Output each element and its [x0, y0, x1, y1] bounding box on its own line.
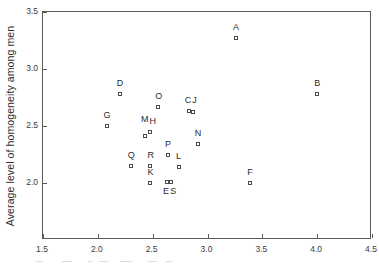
x-tick-mark	[262, 234, 263, 238]
data-point-marker	[156, 105, 160, 109]
data-point-label: S	[170, 187, 176, 196]
artifact-dash	[120, 261, 132, 262]
data-point-marker	[177, 165, 181, 169]
data-point-label: K	[147, 168, 153, 177]
y-tick-label: 2.5	[20, 120, 38, 130]
x-tick-label: 2.0	[83, 244, 111, 254]
data-point-marker	[148, 181, 152, 185]
data-point-marker	[129, 164, 133, 168]
y-tick-mark	[43, 69, 47, 70]
data-point-label: O	[155, 92, 162, 101]
artifact-dash	[148, 261, 157, 262]
data-point-label: N	[195, 129, 202, 138]
scatter-plot-figure: Average level of homogeneity among men 2…	[0, 0, 379, 266]
x-tick-label: 3.0	[193, 244, 221, 254]
data-point-label: H	[149, 117, 156, 126]
data-point-marker	[248, 181, 252, 185]
x-tick-mark	[372, 234, 373, 238]
artifact-dash	[36, 261, 43, 262]
data-point-marker	[166, 153, 170, 157]
y-axis-label: Average level of homogeneity among men	[2, 12, 18, 240]
data-point-label: R	[147, 151, 154, 160]
data-point-label: F	[247, 168, 253, 177]
x-tick-mark	[153, 234, 154, 238]
data-point-label: B	[314, 79, 320, 88]
data-point-marker	[118, 92, 122, 96]
data-point-label: E	[163, 187, 169, 196]
data-point-marker	[234, 36, 238, 40]
y-tick-label: 3.5	[20, 6, 38, 16]
data-point-marker	[143, 134, 147, 138]
data-point-marker	[196, 142, 200, 146]
x-tick-label: 4.5	[357, 244, 379, 254]
data-point-label: J	[192, 96, 197, 105]
data-point-label: M	[141, 115, 149, 124]
x-tick-label: 2.5	[138, 244, 166, 254]
artifact-dash	[88, 261, 92, 262]
y-tick-mark	[43, 12, 47, 13]
x-tick-label: 1.5	[28, 244, 56, 254]
x-tick-label: 4.0	[302, 244, 330, 254]
y-tick-label: 3.0	[20, 63, 38, 73]
data-point-label: L	[176, 152, 181, 161]
data-point-marker	[148, 130, 152, 134]
page-artifact-marks	[36, 259, 196, 263]
data-point-marker	[191, 110, 195, 114]
x-tick-mark	[208, 234, 209, 238]
y-tick-label: 2.0	[20, 177, 38, 187]
data-point-marker	[187, 109, 191, 113]
data-point-label: P	[165, 140, 171, 149]
artifact-dash	[166, 261, 172, 262]
y-tick-mark	[43, 183, 47, 184]
data-point-marker	[105, 124, 109, 128]
data-point-label: A	[233, 23, 239, 32]
artifact-dash	[99, 261, 108, 262]
artifact-dash	[62, 261, 72, 262]
x-tick-label: 3.5	[247, 244, 275, 254]
data-point-label: C	[185, 96, 192, 105]
x-tick-mark	[98, 234, 99, 238]
data-point-marker	[315, 92, 319, 96]
plot-area: ABDOCJGMHNPQLRKESF	[42, 11, 371, 239]
data-point-label: Q	[128, 151, 135, 160]
x-tick-mark	[317, 234, 318, 238]
data-point-label: G	[104, 111, 111, 120]
data-point-marker	[169, 180, 173, 184]
data-point-label: D	[117, 79, 124, 88]
x-tick-mark	[43, 234, 44, 238]
y-tick-mark	[43, 126, 47, 127]
